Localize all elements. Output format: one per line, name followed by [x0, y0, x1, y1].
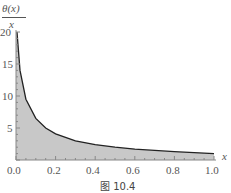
ylabel-fraction-bar [2, 17, 26, 18]
figure-caption: 图 10.4 [100, 178, 135, 193]
xtick-0.8: 0.8 [166, 164, 180, 176]
xtick-0: 0.0 [7, 164, 21, 176]
ytick-10: 10 [2, 90, 13, 102]
ytick-20: 20 [0, 26, 11, 38]
xtick-1.0: 1.0 [205, 164, 219, 176]
xtick-0.6: 0.6 [126, 164, 140, 176]
xtick-0.2: 0.2 [47, 164, 61, 176]
plot-area [0, 0, 231, 193]
ytick-5: 5 [7, 122, 13, 134]
chart: θ(x) x 20 15 10 5 0.0 0.2 0.4 0.6 0.8 1.… [0, 0, 231, 193]
ylabel-numerator: θ(x) [2, 2, 20, 14]
xlabel: x [222, 150, 227, 162]
ytick-15: 15 [2, 58, 13, 70]
xtick-0.4: 0.4 [86, 164, 100, 176]
